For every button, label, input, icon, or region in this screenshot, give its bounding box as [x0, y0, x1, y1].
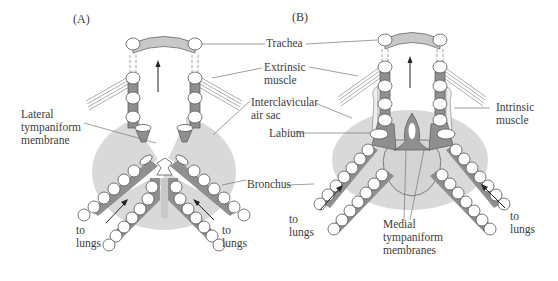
label-medial-line2: tympaniform: [383, 231, 443, 244]
label-labium: Labium: [269, 127, 305, 140]
lungs-text: lungs: [76, 237, 101, 250]
label-extrinsic-line2: muscle: [264, 74, 306, 87]
label-extrinsic-line1: Extrinsic: [264, 61, 306, 74]
lungs-text: lungs: [289, 226, 314, 239]
syrinx-b: [286, 33, 510, 236]
lungs-text: lungs: [510, 223, 535, 236]
to-text: to: [289, 213, 314, 226]
label-lateral-tympaniform-membrane: Lateral tympaniform membrane: [21, 108, 81, 147]
label-intrinsic-line1: Intrinsic: [496, 101, 534, 114]
label-trachea: Trachea: [266, 37, 303, 50]
panel-label-b: (B): [292, 10, 308, 25]
trachea-band-b: [385, 33, 440, 50]
labium-right: [437, 129, 455, 139]
label-lateral-line3: membrane: [21, 134, 81, 147]
label-interclavicular-line2: air sac: [251, 109, 318, 122]
label-medial-line1: Medial: [383, 218, 443, 231]
labium-left: [370, 129, 388, 139]
trachea-band-a: [133, 37, 195, 54]
to-text: to: [222, 224, 247, 237]
label-to-lungs-a-right: to lungs: [222, 224, 247, 250]
panel-label-a: (A): [73, 12, 90, 27]
label-interclavicular-air-sac: Interclavicular air sac: [251, 96, 318, 122]
label-medial-tympaniform-membranes: Medial tympaniform membranes: [383, 218, 443, 257]
label-to-lungs-b-right: to lungs: [510, 210, 535, 236]
syrinx-a: [78, 37, 265, 252]
label-to-lungs-b-left: to lungs: [289, 213, 314, 239]
to-text: to: [510, 210, 535, 223]
to-text: to: [76, 224, 101, 237]
label-extrinsic-muscle: Extrinsic muscle: [264, 61, 306, 87]
label-intrinsic-line2: muscle: [496, 114, 534, 127]
lungs-text: lungs: [222, 237, 247, 250]
label-lateral-line1: Lateral: [21, 108, 81, 121]
label-lateral-line2: tympaniform: [21, 121, 81, 134]
label-intrinsic-muscle: Intrinsic muscle: [496, 101, 534, 127]
label-bronchus: Bronchus: [247, 178, 291, 191]
label-medial-line3: membranes: [383, 244, 443, 257]
label-interclavicular-line1: Interclavicular: [251, 96, 318, 109]
label-to-lungs-a-left: to lungs: [76, 224, 101, 250]
